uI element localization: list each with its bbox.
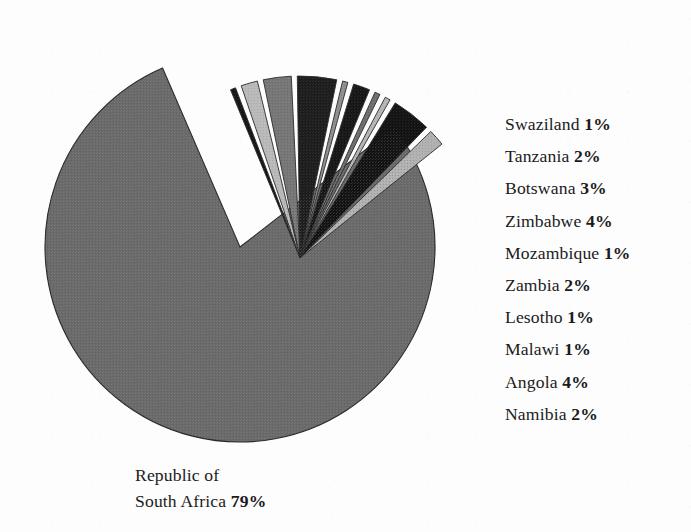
legend-item-percent: 4%	[586, 211, 613, 231]
legend-item: Malawi 1%	[505, 333, 691, 365]
legend-item-percent: 1%	[584, 114, 611, 134]
main-slice-callout-percent: 79%	[231, 491, 267, 511]
legend-item-percent: 1%	[604, 243, 631, 263]
legend-item: Zimbabwe 4%	[505, 205, 691, 237]
legend-item: Namibia 2%	[505, 398, 691, 430]
legend-item-label: Malawi	[505, 339, 564, 359]
legend-item-label: Zambia	[505, 275, 564, 295]
legend-item: Zambia 2%	[505, 269, 691, 301]
legend-item-percent: 1%	[567, 307, 594, 327]
main-slice-callout-name: South Africa	[135, 491, 231, 511]
main-slice-callout: Republic of South Africa 79%	[135, 462, 266, 514]
pie-chart: Swaziland 1%Tanzania 2%Botswana 3%Zimbab…	[0, 0, 691, 532]
legend-item: Angola 4%	[505, 366, 691, 398]
legend-item-percent: 2%	[564, 275, 591, 295]
legend-item: Botswana 3%	[505, 172, 691, 204]
main-slice-callout-line2: South Africa 79%	[135, 488, 266, 514]
legend-item: Swaziland 1%	[505, 108, 691, 140]
legend-item-label: Tanzania	[505, 146, 574, 166]
legend-item-label: Botswana	[505, 178, 580, 198]
main-slice-callout-line1: Republic of	[135, 462, 266, 488]
legend-item-percent: 3%	[580, 178, 607, 198]
legend-item: Mozambique 1%	[505, 237, 691, 269]
legend-item-percent: 2%	[571, 404, 598, 424]
legend-item-label: Zimbabwe	[505, 211, 586, 231]
legend-item-label: Namibia	[505, 404, 571, 424]
legend-item-percent: 2%	[574, 146, 601, 166]
legend-item-percent: 4%	[562, 372, 589, 392]
legend-item: Lesotho 1%	[505, 301, 691, 333]
legend-item-label: Swaziland	[505, 114, 584, 134]
legend-item-label: Angola	[505, 372, 562, 392]
legend-item-label: Lesotho	[505, 307, 567, 327]
legend: Swaziland 1%Tanzania 2%Botswana 3%Zimbab…	[505, 108, 691, 430]
legend-item-label: Mozambique	[505, 243, 604, 263]
main-slice-callout-line1-text: Republic of	[135, 465, 219, 485]
legend-item-percent: 1%	[564, 339, 591, 359]
pie-texture-layer	[45, 68, 442, 442]
legend-item: Tanzania 2%	[505, 140, 691, 172]
